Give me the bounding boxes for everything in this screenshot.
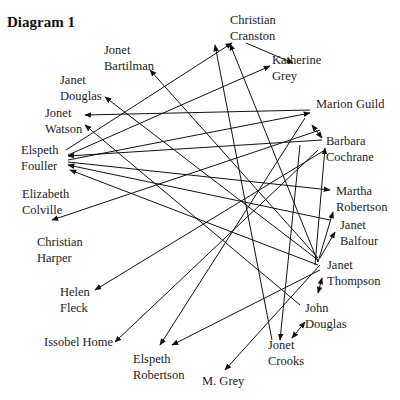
edge-arrow bbox=[95, 150, 325, 290]
edge-bidirectional bbox=[318, 278, 322, 293]
node-janet-thompson: Janet Thompson bbox=[327, 257, 380, 289]
node-elspeth-robertson: Elspeth Robertson bbox=[133, 351, 184, 383]
node-john-douglas: John Douglas bbox=[305, 300, 347, 332]
node-christian-harper: Christian Harper bbox=[37, 234, 83, 266]
node-martha-robertson: Martha Robertson bbox=[336, 183, 387, 215]
node-jonet-crooks: Jonet Crooks bbox=[268, 337, 304, 369]
node-barbara-cochrane: Barbara Cochrane bbox=[326, 133, 374, 165]
edge-arrow bbox=[85, 110, 310, 115]
node-katherine-grey: Katherine Grey bbox=[272, 52, 321, 84]
node-janet-balfour: Janet Balfour bbox=[340, 217, 378, 249]
edge-arrow bbox=[105, 97, 318, 260]
edge-arrow bbox=[320, 232, 335, 258]
node-elizabeth-colville: Elizabeth Colville bbox=[22, 186, 69, 218]
node-issobel-home: Issobel Home bbox=[44, 334, 113, 350]
edge-arrow bbox=[115, 150, 318, 342]
node-elspeth-fouller: Elspeth Fouller bbox=[21, 142, 59, 174]
edge-arrow bbox=[215, 45, 272, 340]
edge-bidirectional bbox=[292, 322, 305, 338]
node-jonet-watson: Jonet Watson bbox=[45, 105, 82, 137]
node-helen-fleck: Helen Fleck bbox=[60, 284, 90, 316]
edge-arrow bbox=[315, 148, 325, 265]
edge-arrow bbox=[172, 270, 320, 345]
node-jonet-bartilman: Jonet Bartilman bbox=[104, 42, 154, 74]
edge-bidirectional bbox=[312, 125, 322, 138]
node-christian-cranston: Christian Cranston bbox=[230, 12, 276, 44]
node-janet-douglas: Janet Douglas bbox=[60, 72, 102, 104]
node-marion-guild: Marion Guild bbox=[316, 96, 384, 112]
edge-arrow bbox=[85, 125, 300, 305]
node-m-grey: M. Grey bbox=[202, 373, 244, 389]
edge-arrow bbox=[68, 165, 330, 220]
